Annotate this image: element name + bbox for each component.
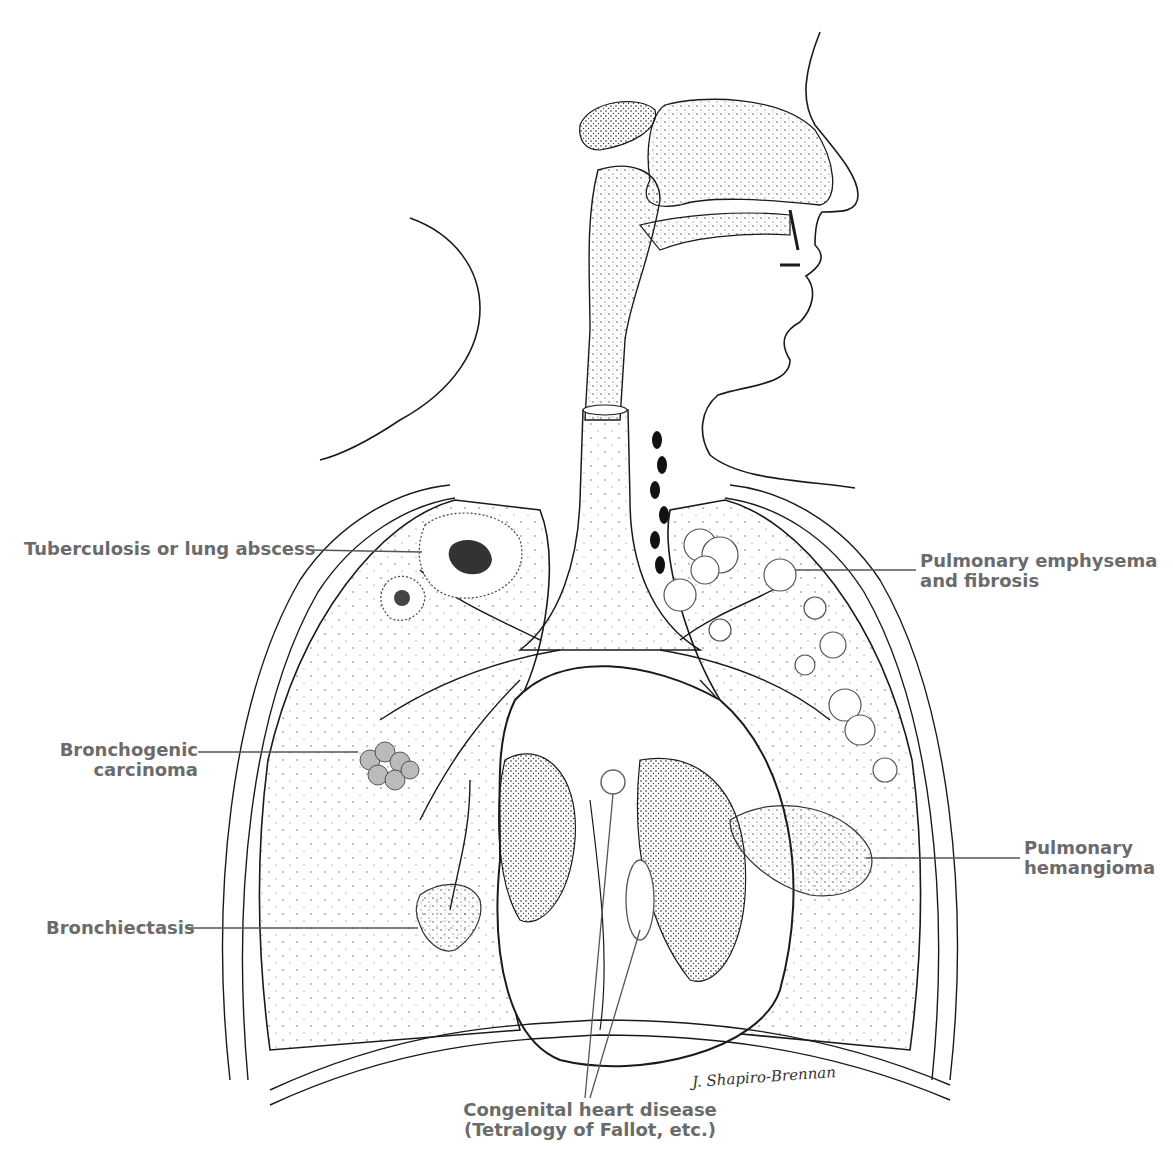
label-hemangioma-line2: hemangioma <box>1024 858 1155 878</box>
label-heart-line1: Congenital heart disease <box>440 1100 740 1120</box>
lymph-nodes <box>650 431 669 574</box>
oral-arch <box>640 213 790 250</box>
label-tuberculosis: Tuberculosis or lung abscess <box>24 539 315 559</box>
label-hemangioma: Pulmonary hemangioma <box>1024 838 1155 878</box>
label-carcinoma-line2: carcinoma <box>58 760 198 780</box>
label-hemangioma-line1: Pulmonary <box>1024 838 1155 858</box>
label-carcinoma-line1: Bronchogenic <box>58 740 198 760</box>
label-emphysema-line1: Pulmonary emphysema <box>920 551 1157 571</box>
back-of-head <box>320 218 480 460</box>
anatomy-figure: Tuberculosis or lung abscess Pulmonary e… <box>0 0 1173 1158</box>
sinus <box>580 102 656 150</box>
label-emphysema-line2: and fibrosis <box>920 571 1157 591</box>
label-carcinoma: Bronchogenic carcinoma <box>58 740 198 780</box>
label-heart-line2: (Tetralogy of Fallot, etc.) <box>440 1120 740 1140</box>
upper-airway <box>580 99 833 420</box>
nasal-cavity <box>646 99 832 206</box>
label-emphysema: Pulmonary emphysema and fibrosis <box>920 551 1157 591</box>
pharynx <box>585 166 660 420</box>
label-heart: Congenital heart disease (Tetralogy of F… <box>440 1100 740 1140</box>
label-bronchiectasis: Bronchiectasis <box>46 918 195 938</box>
vsd <box>626 860 654 940</box>
